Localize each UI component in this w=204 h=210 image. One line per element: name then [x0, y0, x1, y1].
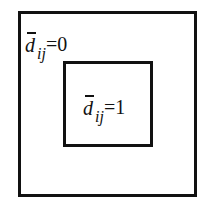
overbar-mark: [85, 95, 94, 97]
outer-region-label: dij=0: [25, 35, 67, 55]
outer-subscript: ij: [37, 45, 46, 62]
inner-relation: =1: [104, 96, 125, 118]
inner-variable: d: [83, 98, 93, 118]
outer-relation: =0: [46, 33, 67, 55]
outer-variable: d: [25, 35, 35, 55]
inner-subscript: ij: [95, 108, 104, 125]
outer-variable-symbol: d: [25, 34, 35, 56]
overbar-mark: [27, 32, 36, 34]
inner-variable-symbol: d: [83, 97, 93, 119]
inner-region-label: dij=1: [83, 98, 125, 118]
